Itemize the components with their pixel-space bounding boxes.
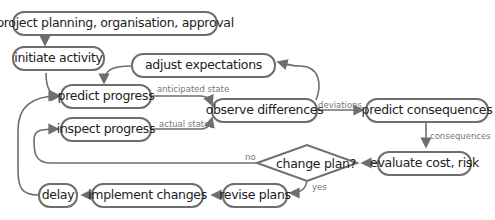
node-delay[interactable]: delay [38,183,78,208]
edge-label-yes: yes [312,182,327,192]
node-predict-consequences[interactable]: predict consequences [365,98,489,123]
node-revise-plans[interactable]: revise plans [222,183,288,208]
node-project-planning[interactable]: project planning, organisation, approval [12,11,218,36]
node-inspect-progress[interactable]: inspect progress [60,117,152,142]
node-implement-changes[interactable]: implement changes [91,183,204,208]
node-adjust-expectations[interactable]: adjust expectations [131,53,276,78]
edge-label-anticipated-state: anticipated state [157,84,229,94]
node-predict-progress[interactable]: predict progress [60,84,152,109]
edge-label-actual-state: actual state [159,119,209,129]
edge-label-no: no [245,152,256,162]
node-change-plan[interactable]: change plan? [276,156,356,171]
node-observe-differences[interactable]: observe differences [211,98,318,123]
edge-label-consequences: consequences [430,131,491,141]
node-evaluate-cost-risk[interactable]: evaluate cost, risk [377,151,472,176]
edge-label-deviations: deviations [318,100,362,110]
node-initiate-activity[interactable]: initiate activity [12,46,105,71]
